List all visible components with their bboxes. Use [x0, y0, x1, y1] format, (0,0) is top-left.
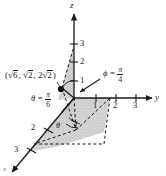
- paren-close: ): [53, 70, 56, 80]
- figure-canvas: [0, 0, 166, 176]
- y-axis-label: y: [155, 93, 159, 102]
- x-tick-3: 3: [14, 145, 18, 154]
- y-tick-1: 1: [93, 101, 97, 110]
- point-leader: [57, 82, 60, 87]
- z-axis-label: z: [70, 1, 74, 10]
- theta-equals: =: [37, 93, 43, 103]
- theta-arc-label: θ: [56, 122, 60, 130]
- y-tick-2: 2: [113, 101, 117, 110]
- phi-equals: =: [110, 68, 116, 78]
- theta-symbol: θ: [31, 93, 35, 103]
- credit-mark: ©: [163, 173, 165, 176]
- sqrt-2: √2: [23, 70, 33, 80]
- theta-numerator: π: [45, 91, 51, 99]
- spherical-coordinates-figure: z y x 3 2 1 1 2 3 2 3 (√6, √2, 2√2) θ = …: [0, 0, 166, 176]
- theta-fraction: π 6: [45, 91, 51, 108]
- x-tick-2: 2: [31, 123, 35, 132]
- phi-numerator: π: [117, 66, 123, 74]
- sqrt-6: √6: [8, 70, 18, 80]
- phi-symbol: ϕ: [103, 68, 107, 78]
- phi-denominator: 4: [117, 76, 123, 84]
- phi-fraction: π 4: [117, 66, 123, 83]
- z-tick-3: 3: [80, 39, 84, 48]
- z-tick-2: 2: [80, 57, 84, 66]
- z-tick-1: 1: [80, 76, 84, 85]
- sqrt-2-second: √2: [42, 70, 52, 80]
- theta-denominator: 6: [45, 101, 51, 109]
- y-tick-3: 3: [133, 101, 137, 110]
- x-axis-label: x: [3, 166, 6, 173]
- point-coordinates-label: (√6, √2, 2√2): [5, 70, 56, 80]
- plotted-point: [58, 86, 64, 92]
- phi-annotation: ϕ = π 4: [103, 66, 123, 83]
- theta-annotation: θ = π 6: [31, 91, 51, 108]
